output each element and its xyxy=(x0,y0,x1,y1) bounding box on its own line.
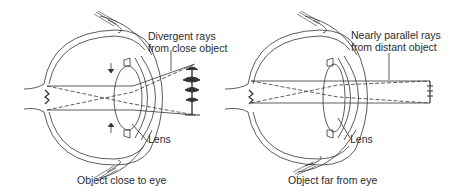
eye-accommodation-figure: Divergent rays from close object Lens Ob… xyxy=(0,0,449,194)
near-rays-label: Divergent rays from close object xyxy=(148,30,227,54)
far-rays-label: Nearly parallel rays from distant object xyxy=(351,29,441,53)
distant-tree-icon xyxy=(427,81,433,103)
tree-icon xyxy=(183,67,200,115)
far-caption: Object far from eye xyxy=(288,174,377,186)
far-rays-label-line2: from distant object xyxy=(351,41,441,53)
far-rays-label-line1: Nearly parallel rays xyxy=(351,29,441,41)
near-rays-label-line1: Divergent rays xyxy=(148,30,227,42)
near-rays-label-line2: from close object xyxy=(148,42,227,54)
far-lens-label: Lens xyxy=(350,133,373,145)
near-lens-label: Lens xyxy=(148,133,171,145)
near-caption: Object close to eye xyxy=(77,174,166,186)
